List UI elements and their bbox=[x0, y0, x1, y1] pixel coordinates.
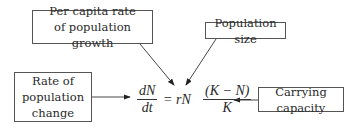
rhs-denominator: K bbox=[223, 100, 232, 116]
equation-middle: = rN bbox=[163, 92, 191, 108]
equation-rhs-fraction: (K − N) K bbox=[203, 83, 251, 116]
per-capita-growth-label-box: Per capita rate of population growth bbox=[32, 10, 153, 44]
rate-of-change-label-box: Rate of population change bbox=[14, 72, 92, 122]
population-size-label: Population size bbox=[206, 15, 285, 47]
carrying-capacity-label: Carrying capacity bbox=[259, 84, 343, 116]
per-capita-growth-label: Per capita rate of population growth bbox=[43, 3, 143, 51]
rate-of-change-label: Rate of population change bbox=[20, 73, 86, 121]
carrying-capacity-label-box: Carrying capacity bbox=[258, 87, 344, 112]
arrow-per-capita-to-r bbox=[140, 44, 174, 85]
population-size-label-box: Population size bbox=[205, 22, 286, 39]
lhs-denominator: dt bbox=[142, 100, 153, 116]
lhs-numerator: dN bbox=[137, 83, 157, 100]
rhs-numerator: (K − N) bbox=[203, 83, 251, 100]
equation-lhs-fraction: dN dt bbox=[137, 83, 157, 116]
